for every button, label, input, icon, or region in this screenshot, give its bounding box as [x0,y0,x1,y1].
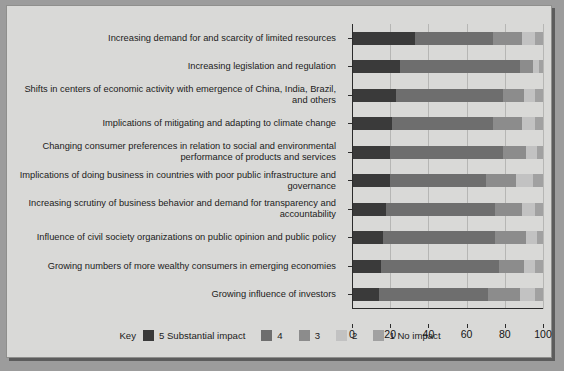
bar-row [352,138,543,167]
category-label: Implications of doing business in countr… [17,167,342,196]
plot-area: Increasing demand for and scarcity of li… [17,16,541,316]
gridline [543,24,544,309]
y-axis-line [352,24,353,309]
category-label: Increasing legislation and regulation [17,53,342,82]
bar-row [352,195,543,224]
stacked-bar [352,146,543,159]
bar-segment [516,174,533,187]
bar-segment [535,203,543,216]
bar-segment [535,260,543,273]
stacked-bar [352,231,543,244]
bar-segment [386,203,495,216]
bar-segment [537,231,543,244]
bar-segment [486,174,517,187]
x-axis-line [352,308,543,309]
bar-segment [352,174,390,187]
legend-swatch-icon [373,330,384,341]
category-label: Changing consumer preferences in relatio… [17,138,342,167]
stacked-bar [352,288,543,301]
legend-label: 1 No impact [389,330,440,341]
category-label: Influence of civil society organizations… [17,224,342,253]
bar-segment [526,146,537,159]
bar-segment [495,231,526,244]
bar-segment [396,89,503,102]
bar-row [352,167,543,196]
bar-segment [383,231,496,244]
bar-segment [352,32,415,45]
bar-row [352,53,543,82]
bar-row [352,110,543,139]
stacked-bar [352,89,543,102]
bar-segment [392,117,493,130]
chart-figure: Increasing demand for and scarcity of li… [6,5,552,358]
bar-segment [522,32,535,45]
bar-segment [535,89,543,102]
bar-segment [522,117,535,130]
bar-segment [400,60,520,73]
stacked-bar [352,32,543,45]
bar-row [352,224,543,253]
legend-key-word: Key [119,330,136,341]
category-label: Increasing demand for and scarcity of li… [17,24,342,53]
bar-segment [503,146,526,159]
category-label: Growing influence of investors [17,281,342,310]
bar-segment [352,203,386,216]
bar-segment [535,32,543,45]
legend-label: 3 [315,330,320,341]
bar-row [352,252,543,281]
bar-segment [535,117,543,130]
legend-swatch-icon [336,330,347,341]
bar-segment [524,260,535,273]
bar-segment [488,288,520,301]
bar-segment [524,89,535,102]
bar-segment [499,260,524,273]
bar-segment [520,288,535,301]
legend-swatch-icon [261,330,272,341]
bar-segment [415,32,493,45]
bar-segment [352,89,396,102]
category-label-column: Increasing demand for and scarcity of li… [17,24,342,309]
bar-segment [503,89,524,102]
bar-segment [522,203,535,216]
category-label: Shifts in centers of economic activity w… [17,81,342,110]
legend-label: 5 Substantial impact [159,330,245,341]
legend-swatch-icon [143,330,154,341]
legend-item[interactable]: 2 [336,330,357,341]
stacked-bar [352,117,543,130]
bar-segment [352,231,383,244]
legend-item[interactable]: 3 [299,330,320,341]
legend-label: 4 [277,330,282,341]
bar-row [352,81,543,110]
category-label: Growing numbers of more wealthy consumer… [17,252,342,281]
stacked-bar [352,60,543,73]
chart-legend: Key5 Substantial impact4321 No impact [17,327,543,343]
bar-segment [520,60,533,73]
bar-segment [539,60,543,73]
bar-rows [352,24,543,309]
bar-segment [352,146,390,159]
stacked-bar-chart [352,24,543,309]
legend-label: 2 [352,330,357,341]
bar-row [352,281,543,310]
bar-segment [533,174,543,187]
bar-segment [352,60,400,73]
bar-row [352,24,543,53]
bar-segment [493,117,522,130]
legend-swatch-icon [299,330,310,341]
bar-segment [526,231,537,244]
bar-segment [493,32,522,45]
bar-segment [535,288,543,301]
bar-segment [352,288,379,301]
legend-item[interactable]: 1 No impact [373,330,440,341]
bar-segment [352,117,392,130]
category-label: Increasing scrutiny of business behavior… [17,195,342,224]
bar-segment [352,260,381,273]
legend-item[interactable]: 4 [261,330,282,341]
bar-segment [390,174,486,187]
bar-segment [381,260,499,273]
bar-segment [379,288,488,301]
legend-item[interactable]: 5 Substantial impact [143,330,245,341]
bar-segment [537,146,543,159]
bar-segment [390,146,503,159]
stacked-bar [352,203,543,216]
